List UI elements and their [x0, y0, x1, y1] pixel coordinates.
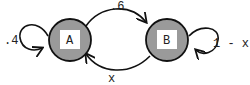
edge-label-b-a: x [108, 72, 115, 85]
edge-label-b-b: 1 - x [213, 37, 249, 51]
markov-diagram: .4 .6 x 1 - x A B [0, 0, 250, 85]
edge-b-to-a [86, 54, 150, 70]
edge-label-a-b: .6 [110, 0, 124, 14]
state-a: A [49, 19, 91, 61]
edge-label-a-a: .4 [4, 34, 18, 48]
edge-a-to-a [20, 25, 48, 50]
state-a-label: A [66, 34, 74, 48]
state-b: B [146, 19, 188, 61]
state-b-label: B [163, 34, 170, 48]
